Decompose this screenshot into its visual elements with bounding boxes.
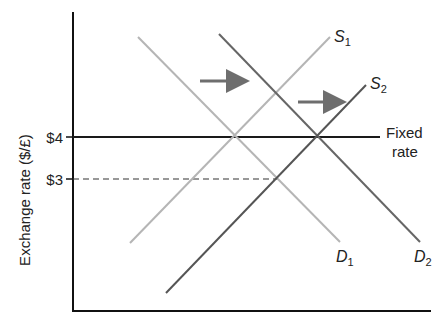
d2-label: D2 — [414, 248, 432, 268]
tick-label-3: $3 — [46, 171, 63, 188]
fixed-rate-label-1: Fixed — [386, 124, 423, 141]
s2-label: S2 — [370, 75, 387, 95]
d1-curve — [138, 37, 340, 242]
d1-label: D1 — [336, 248, 354, 268]
s1-curve — [130, 37, 330, 243]
tick-label-4: $4 — [46, 129, 63, 146]
s1-label: S1 — [334, 28, 351, 48]
fixed-rate-label-2: rate — [392, 143, 418, 160]
exchange-rate-diagram: Exchange rate ($/£) $4 $3 Fixed rate S1 … — [0, 0, 439, 326]
y-axis-label: Exchange rate ($/£) — [16, 134, 33, 266]
